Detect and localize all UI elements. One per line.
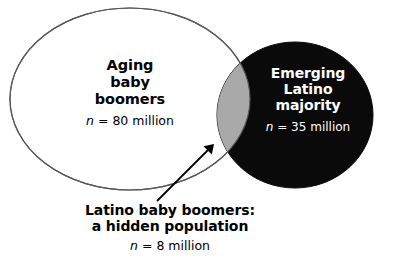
- right-set-line-2: Latino: [244, 81, 372, 97]
- venn-diagram-figure: Aging baby boomers n = 80 million Emergi…: [0, 0, 396, 260]
- intersection-count: n = 8 million: [55, 239, 285, 254]
- right-set-label: Emerging Latino majority n = 35 million: [244, 65, 372, 135]
- left-set-count: n = 80 million: [60, 114, 200, 129]
- intersection-n-value: = 8 million: [138, 238, 210, 253]
- left-set-line-3: boomers: [60, 91, 200, 108]
- left-set-line-2: baby: [60, 74, 200, 91]
- right-set-line-3: majority: [244, 97, 372, 113]
- intersection-caption: Latino baby boomers: a hidden population…: [55, 202, 285, 254]
- left-set-n-symbol: n: [86, 113, 94, 128]
- left-set-label: Aging baby boomers n = 80 million: [60, 57, 200, 129]
- intersection-line-2: a hidden population: [55, 218, 285, 234]
- intersection-n-symbol: n: [130, 238, 138, 253]
- right-set-n-value: = 35 million: [273, 120, 350, 134]
- left-set-n-value: = 80 million: [94, 113, 174, 128]
- right-set-line-1: Emerging: [244, 65, 372, 81]
- right-set-count: n = 35 million: [244, 121, 372, 135]
- left-set-line-1: Aging: [60, 57, 200, 74]
- intersection-line-1: Latino baby boomers:: [55, 202, 285, 218]
